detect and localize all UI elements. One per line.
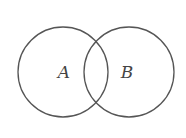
set-b-label: B — [120, 62, 134, 82]
venn-diagram: A B — [0, 0, 186, 138]
set-a-label: A — [56, 62, 70, 82]
